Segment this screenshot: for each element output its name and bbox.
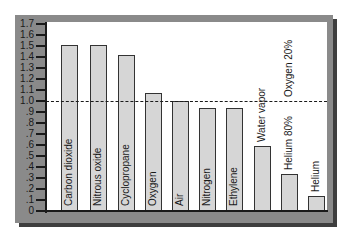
y-tick-label: .9 <box>26 107 34 117</box>
bar-label: Air <box>174 194 186 206</box>
y-tick-label: 0 <box>28 206 34 216</box>
bar-label: Helium <box>310 160 322 191</box>
bar-label: Helium 80% <box>283 116 295 170</box>
y-tick-label: 1.6 <box>20 30 34 40</box>
bar-label: Oxygen <box>147 172 159 206</box>
bar-label-oxygen-20: Oxygen 20% <box>283 40 295 97</box>
y-tick-label: .3 <box>26 173 34 183</box>
y-tick-label: .7 <box>26 129 34 139</box>
bar-water-vapor <box>254 146 271 211</box>
y-tick-label: .4 <box>26 162 34 172</box>
y-tick-label: 1.2 <box>20 74 34 84</box>
bar-label: Water vapor <box>256 88 268 142</box>
x-axis-line <box>45 210 328 212</box>
bar-label: Cyclopropane <box>120 144 132 206</box>
y-tick-label: 1.5 <box>20 41 34 51</box>
bar-label: Nitrogen <box>201 168 213 206</box>
reference-line-1-0 <box>46 101 327 102</box>
y-tick-label: 1.0 <box>20 96 34 106</box>
y-tick-label: 1.1 <box>20 85 34 95</box>
y-tick-label: .5 <box>26 151 34 161</box>
y-axis-line <box>45 22 47 213</box>
bar-label: Ethylene <box>228 167 240 206</box>
bar-label: Nitrous oxide <box>92 148 104 206</box>
y-tick-label: .8 <box>26 118 34 128</box>
bar-helium <box>308 196 325 211</box>
y-tick-label: 1.3 <box>20 63 34 73</box>
y-tick-label: .6 <box>26 140 34 150</box>
bar-helium-80-oxygen-20 <box>281 174 298 211</box>
y-tick-label: .1 <box>26 195 34 205</box>
bar-label: Carbon dioxide <box>63 139 75 206</box>
y-tick-label: .2 <box>26 184 34 194</box>
y-tick-label: 1.4 <box>20 52 34 62</box>
y-tick-label: 1.7 <box>20 19 34 29</box>
